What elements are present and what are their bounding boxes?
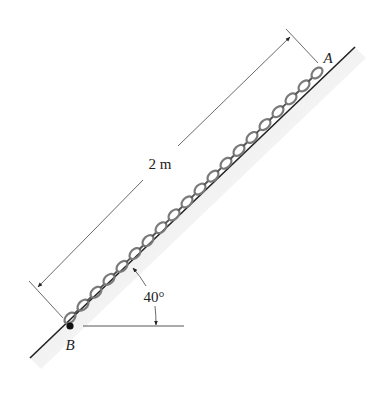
dimension-label: 2 m xyxy=(149,156,172,172)
extension-line-a xyxy=(286,29,318,63)
chain xyxy=(62,65,324,325)
point-a-label: A xyxy=(322,50,333,66)
angle-label: 40° xyxy=(144,289,165,305)
point-b-pin xyxy=(66,322,73,329)
angle-arc-lower xyxy=(155,306,156,325)
incline-shading xyxy=(30,47,366,369)
extension-line-b xyxy=(29,281,63,318)
point-b-label: B xyxy=(65,337,74,353)
chain-incline-diagram: 2 m 40° A B xyxy=(0,0,379,395)
